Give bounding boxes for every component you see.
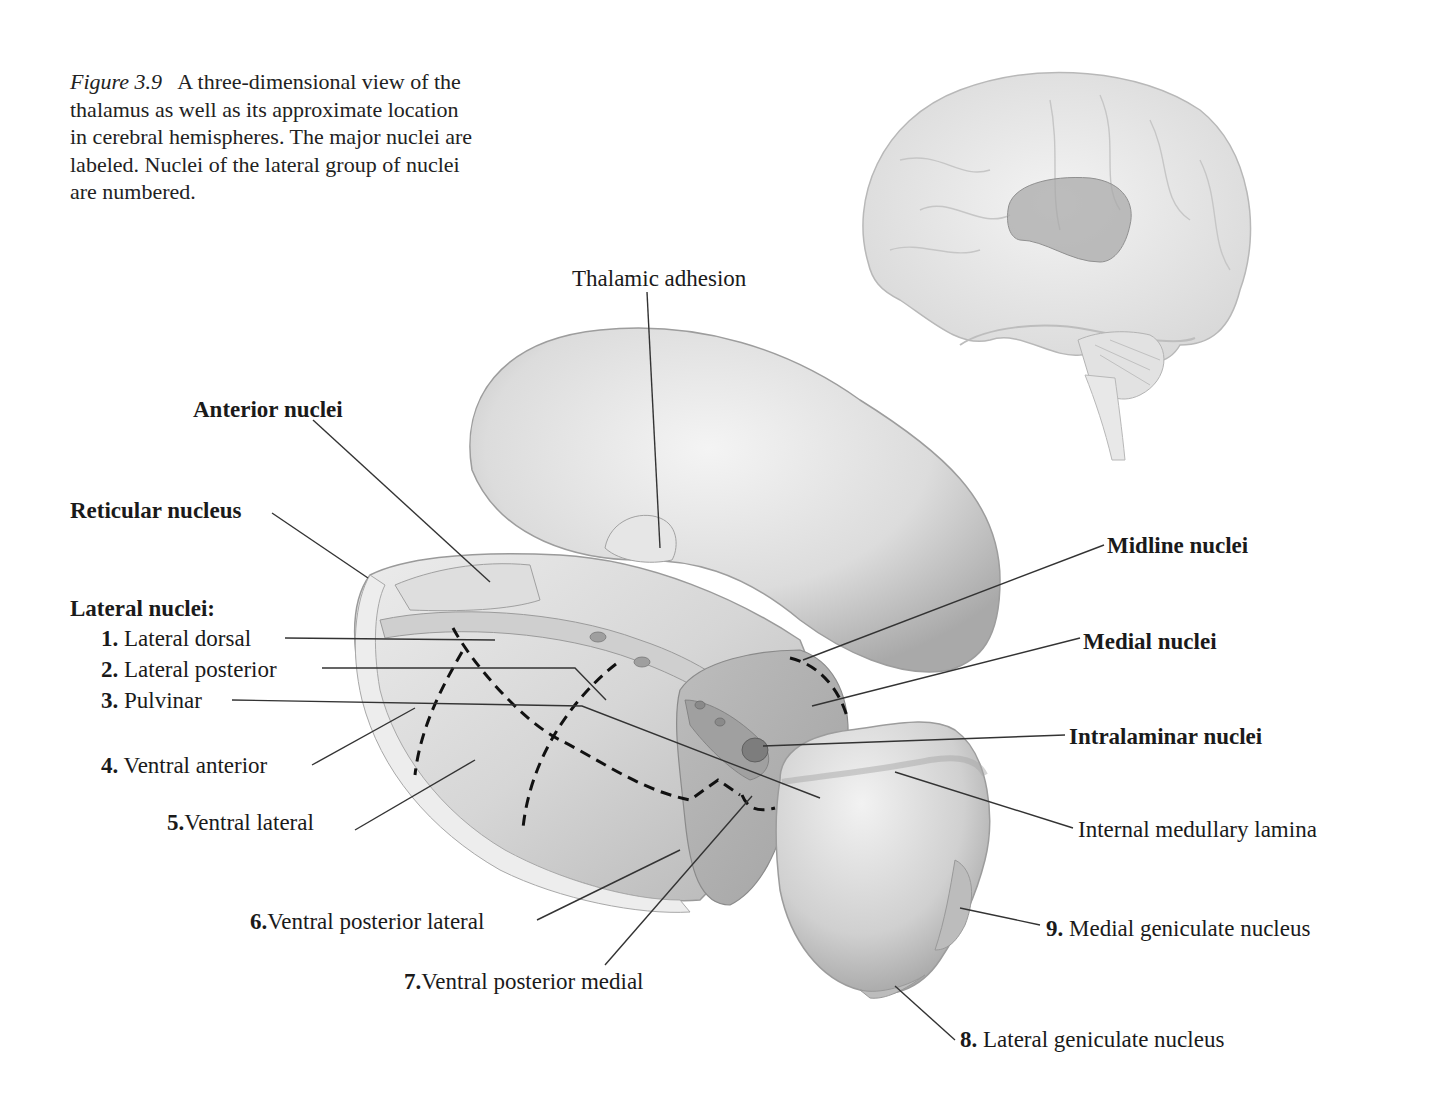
label-midline-nuclei: Midline nuclei: [1107, 533, 1248, 559]
label-internal-medullary-lamina: Internal medullary lamina: [1078, 817, 1317, 843]
label-medial-geniculate: 9. Medial geniculate nucleus: [1046, 916, 1310, 942]
label-lateral-posterior: 2. Lateral posterior: [101, 657, 277, 683]
label-intralaminar-nuclei: Intralaminar nuclei: [1069, 724, 1262, 750]
intralaminar-nucleus-shape: [742, 738, 768, 762]
label-thalamic-adhesion: Thalamic adhesion: [572, 266, 746, 292]
label-ventral-posterior-medial: 7.Ventral posterior medial: [404, 969, 644, 995]
geniculate-block: [776, 722, 989, 994]
label-reticular-nucleus: Reticular nucleus: [70, 498, 241, 524]
label-lateral-dorsal: 1. Lateral dorsal: [101, 626, 251, 652]
label-medial-nuclei: Medial nuclei: [1083, 629, 1217, 655]
label-anterior-nuclei: Anterior nuclei: [193, 397, 343, 423]
label-ventral-posterior-lateral: 6.Ventral posterior lateral: [250, 909, 484, 935]
label-pulvinar: 3. Pulvinar: [101, 688, 202, 714]
label-lateral-geniculate: 8. Lateral geniculate nucleus: [960, 1027, 1224, 1053]
brain-inset: [863, 73, 1251, 460]
label-ventral-lateral: 5.Ventral lateral: [167, 810, 314, 836]
label-lateral-nuclei-heading: Lateral nuclei:: [70, 596, 215, 622]
label-ventral-anterior: 4. Ventral anterior: [101, 753, 267, 779]
